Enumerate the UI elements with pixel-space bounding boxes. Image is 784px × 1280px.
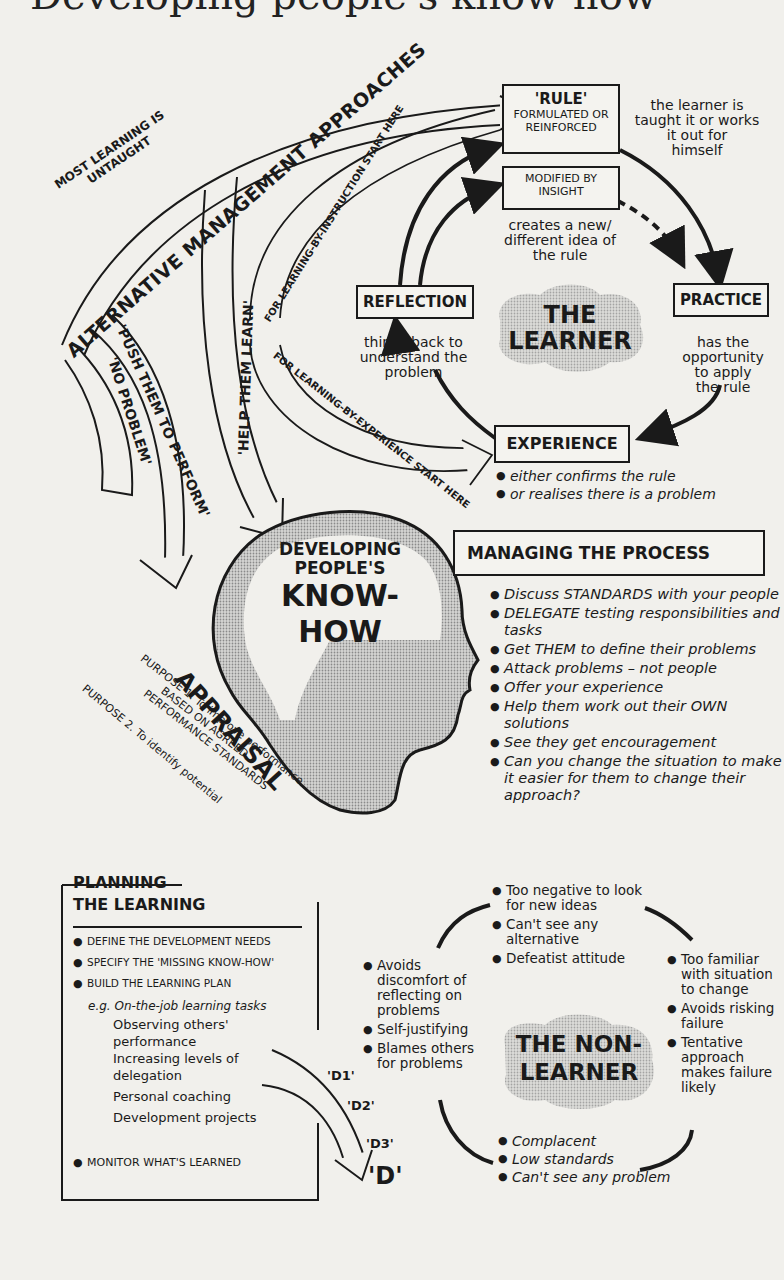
reflection-note-line: understand the (346, 350, 481, 365)
rule-note: the learner is taught it or works it out… (622, 98, 772, 158)
practice-note-line: to apply (668, 365, 778, 380)
reflection-note-line: problem (346, 365, 481, 380)
planning-eg-label: e.g. On-the-job learning tasks (88, 999, 266, 1013)
d-final-label: 'D' (368, 1162, 403, 1190)
non-learner-bullet: Can't see any problem (498, 1169, 698, 1185)
practice-note: has the opportunity to apply the rule (668, 335, 778, 395)
non-learner-bullet: Low standards (498, 1151, 698, 1167)
reflection-note: thinks back to understand the problem (346, 335, 481, 380)
non-learner-center-label: THE NON- LEARNER (505, 1030, 653, 1086)
managing-bullets: Discuss STANDARDS with your people DELEG… (490, 586, 782, 806)
d2-label: 'D2' (347, 1098, 375, 1113)
learner-center-label: THE LEARNER (500, 302, 640, 354)
non-learner-center-line2: LEARNER (505, 1058, 653, 1086)
planning-task: Increasing levels of delegation (113, 1050, 263, 1084)
reflection-box: REFLECTION (356, 285, 474, 319)
d3-label: 'D3' (366, 1136, 394, 1151)
practice-title: PRACTICE (680, 291, 762, 309)
planning-monitor-bullet: MONITOR WHAT'S LEARNED (73, 1155, 241, 1171)
rule-title: 'RULE' (504, 90, 618, 108)
modified-note-line: the rule (490, 248, 630, 263)
planning-bullet: SPECIFY THE 'MISSING KNOW-HOW' (73, 956, 323, 969)
modified-note-line: different idea of (490, 233, 630, 248)
experience-bullets: either confirms the rule or realises the… (496, 468, 781, 504)
non-learner-bullet: Too familiar with situation to change (667, 952, 782, 997)
learner-center-line1: THE (500, 302, 640, 328)
head-line2: PEOPLE'S (250, 559, 430, 578)
planning-task: Personal coaching (113, 1088, 313, 1105)
planning-bullet: DEFINE THE DEVELOPMENT NEEDS (73, 935, 323, 948)
non-learner-bullet: Can't see any alternative (492, 917, 626, 947)
managing-title-box: MANAGING THE PROCESS (453, 530, 765, 576)
planning-bullet: BUILD THE LEARNING PLAN (73, 977, 323, 990)
experience-title: EXPERIENCE (506, 434, 617, 453)
rule-note-line: taught it or works (622, 113, 772, 128)
reflection-title: REFLECTION (363, 293, 467, 311)
planning-bullets: DEFINE THE DEVELOPMENT NEEDS SPECIFY THE… (73, 935, 323, 992)
non-learner-bullet: Avoids risking failure (667, 1001, 782, 1031)
practice-note-line: has the (668, 335, 778, 350)
planning-title-line2: THE LEARNING (73, 894, 206, 916)
rule-note-line: himself (622, 143, 772, 158)
managing-bullet: Attack problems – not people (490, 660, 782, 677)
managing-bullet: Discuss STANDARDS with your people (490, 586, 782, 603)
modified-box: MODIFIED BY INSIGHT (502, 166, 620, 210)
non-learner-bullet: Tentative approach makes failure likely (667, 1035, 782, 1095)
non-learner-bullet: Self-justifying (363, 1022, 478, 1037)
managing-bullet: See they get encouragement (490, 734, 782, 751)
managing-title: MANAGING THE PROCESS (467, 543, 710, 563)
non-learner-right-bullets: Too familiar with situation to change Av… (667, 952, 782, 1097)
non-learner-bullet: Defeatist attitude (492, 951, 662, 966)
managing-bullet: DELEGATE testing responsibilities and ta… (490, 605, 782, 639)
d1-label: 'D1' (327, 1068, 355, 1083)
planning-task: Development projects (113, 1109, 313, 1126)
managing-bullet: Can you change the situation to make it … (490, 753, 782, 804)
experience-box: EXPERIENCE (494, 425, 630, 463)
modified-line1: MODIFIED BY (504, 172, 618, 185)
experience-bullet: or realises there is a problem (496, 486, 781, 502)
non-learner-center-line1: THE NON- (505, 1030, 653, 1058)
rule-sub2: REINFORCED (504, 121, 618, 134)
modified-line2: INSIGHT (504, 185, 618, 198)
managing-bullet: Help them work out their OWN solutions (490, 698, 782, 732)
rule-note-line: the learner is (622, 98, 772, 113)
rule-box: 'RULE' FORMULATED OR REINFORCED (502, 84, 620, 154)
non-learner-bullet: Too negative to look for new ideas (492, 883, 662, 913)
rule-note-line: it out for (622, 128, 772, 143)
modified-note: creates a new/ different idea of the rul… (490, 218, 630, 263)
managing-bullet: Get THEM to define their problems (490, 641, 782, 658)
managing-bullet: Offer your experience (490, 679, 782, 696)
non-learner-bullet: Complacent (498, 1133, 698, 1149)
practice-note-line: opportunity (668, 350, 778, 365)
planning-title: PLANNING THE LEARNING (73, 872, 206, 916)
head-line1: DEVELOPING (250, 540, 430, 559)
experience-bullet: either confirms the rule (496, 468, 781, 484)
non-learner-bottom-bullets: Complacent Low standards Can't see any p… (498, 1133, 698, 1187)
head-line3: KNOW-HOW (250, 578, 430, 650)
reflection-note-line: thinks back to (346, 335, 481, 350)
non-learner-bullet: Avoids discomfort of reflecting on probl… (363, 958, 478, 1018)
head-label: DEVELOPING PEOPLE'S KNOW-HOW (250, 540, 430, 650)
practice-box: PRACTICE (673, 283, 769, 317)
non-learner-left-bullets: Avoids discomfort of reflecting on probl… (363, 958, 478, 1073)
modified-note-line: creates a new/ (490, 218, 630, 233)
non-learner-top-bullets: Too negative to look for new ideas Can't… (492, 883, 662, 968)
planning-monitor: MONITOR WHAT'S LEARNED (73, 1155, 241, 1173)
non-learner-bullet: Blames others for problems (363, 1041, 478, 1071)
planning-task: Observing others' performance (113, 1016, 313, 1050)
planning-title-line1: PLANNING (73, 872, 206, 894)
rule-sub1: FORMULATED OR (504, 108, 618, 121)
planning-tasks: Observing others' performance Increasing… (113, 1016, 313, 1126)
practice-note-line: the rule (668, 380, 778, 395)
learner-center-line2: LEARNER (500, 328, 640, 354)
